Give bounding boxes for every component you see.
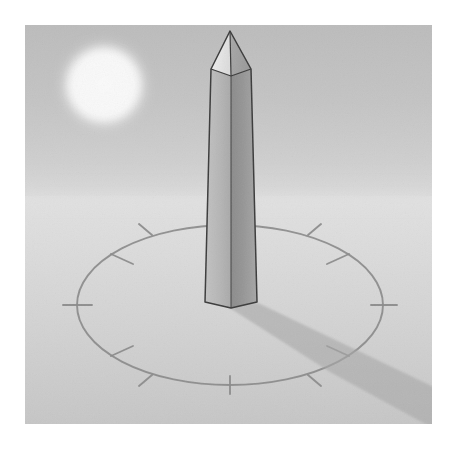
obelisk-sundial-illustration [0,0,458,452]
paper-grain-overlay [25,25,432,424]
scene-group [25,25,440,432]
illustration-canvas: Obelisk sundial An obelisk acting as the… [0,0,458,452]
